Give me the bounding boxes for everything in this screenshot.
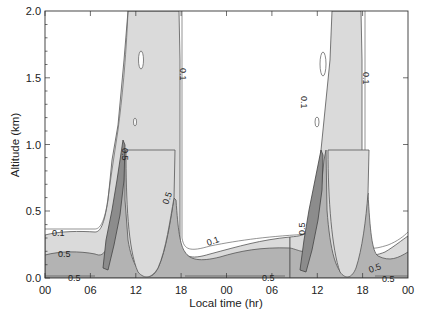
- y-tick-labels: 0.0 0.5 1.0 1.5 2.0: [26, 5, 41, 284]
- contour-chart: 0.1 0.5 0.5 0.5 0.5 0.1 0.1 0.5 0.5 0.1 …: [0, 0, 422, 318]
- closed-contour-2: [134, 118, 137, 126]
- x-tick-labels: 00 06 12 18 00 06 12 18 00: [39, 284, 414, 296]
- contour-fills: [45, 11, 408, 278]
- x-tick-label: 00: [220, 284, 232, 296]
- x-axis-title: Local time (hr): [189, 297, 263, 309]
- contour-label: 0.1: [361, 72, 371, 85]
- y-tick-label: 0.5: [26, 205, 41, 217]
- y-tick-label: 0.0: [26, 272, 41, 284]
- contour-label: 0.5: [297, 222, 307, 235]
- contour-label: 0.5: [58, 249, 71, 259]
- y-tick-label: 1.5: [26, 72, 41, 84]
- contour-label: 0.1: [299, 96, 309, 109]
- y-tick-label: 2.0: [26, 5, 41, 17]
- y-axis-title: Altitude (km): [9, 113, 21, 178]
- closed-contour-1: [139, 51, 144, 69]
- contour-label: 0.1: [178, 68, 188, 81]
- contour-label: 0.5: [120, 148, 130, 161]
- x-tick-label: 00: [39, 284, 51, 296]
- contour-label: 0.1: [52, 228, 65, 238]
- x-tick-label: 18: [175, 284, 187, 296]
- x-tick-label: 12: [130, 284, 142, 296]
- x-tick-label: 06: [266, 284, 278, 296]
- closed-contour-3: [320, 52, 326, 76]
- x-tick-label: 00: [402, 284, 414, 296]
- closed-contour-4: [315, 117, 319, 127]
- x-tick-label: 06: [84, 284, 96, 296]
- y-tick-label: 1.0: [26, 139, 41, 151]
- x-tick-label: 12: [311, 284, 323, 296]
- x-tick-label: 18: [356, 284, 368, 296]
- contour-label: 0.5: [382, 274, 395, 284]
